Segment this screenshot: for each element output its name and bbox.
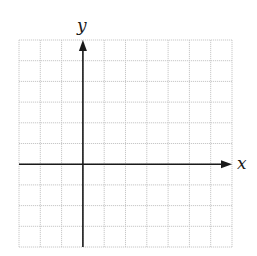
y-axis-label: y [76, 15, 87, 35]
x-axis-arrowhead-icon [221, 160, 232, 168]
grid-lines [19, 40, 232, 247]
coordinate-plane: x y [0, 0, 257, 256]
x-axis-label: x [237, 153, 247, 173]
y-axis-arrowhead-icon [79, 40, 87, 51]
